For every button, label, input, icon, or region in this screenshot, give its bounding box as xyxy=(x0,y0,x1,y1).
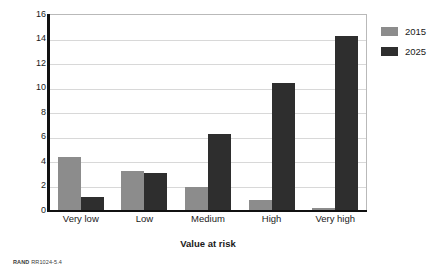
legend-swatch xyxy=(381,47,398,56)
bar-2025[interactable] xyxy=(81,197,104,210)
bar-2025[interactable] xyxy=(272,83,295,210)
bar-group xyxy=(58,15,104,210)
y-tick-label: 12 xyxy=(24,59,46,68)
bar-2025[interactable] xyxy=(144,173,167,210)
chart-figure: Average number of tools used 02468101214… xyxy=(0,0,442,277)
bar-2025[interactable] xyxy=(335,36,358,210)
y-tick-label: 8 xyxy=(24,108,46,117)
x-axis-tick-labels: Very lowLowMediumHighVery high xyxy=(49,213,367,227)
y-tick-label: 6 xyxy=(24,132,46,141)
x-axis-line xyxy=(47,210,367,213)
y-tick-label: 4 xyxy=(24,157,46,166)
y-axis-tick-labels: 0246810121416 xyxy=(24,14,46,210)
bar-2015[interactable] xyxy=(185,187,208,210)
bar-group xyxy=(249,15,295,210)
y-tick-label: 10 xyxy=(24,83,46,92)
legend-item[interactable]: 2015 xyxy=(381,26,439,37)
credit-figure-number: RR1024-5.4 xyxy=(31,259,62,265)
figure-credit: RANDRR1024-5.4 xyxy=(13,259,62,265)
bar-group xyxy=(185,15,231,210)
chart-legend: 20152025 xyxy=(381,26,439,66)
bar-group xyxy=(121,15,167,210)
legend-label: 2015 xyxy=(405,26,426,37)
bar-2015[interactable] xyxy=(58,157,81,210)
y-tick-label: 16 xyxy=(24,10,46,19)
x-tick-label: Low xyxy=(113,213,177,225)
y-tick-label: 2 xyxy=(24,181,46,190)
bar-2015[interactable] xyxy=(249,200,272,210)
x-axis-title: Value at risk xyxy=(49,238,367,249)
legend-label: 2025 xyxy=(405,46,426,57)
bar-2015[interactable] xyxy=(121,171,144,210)
y-axis-line xyxy=(47,14,50,212)
x-tick-label: Very low xyxy=(49,213,113,225)
plot-area xyxy=(49,14,367,210)
bar-2025[interactable] xyxy=(208,134,231,210)
x-tick-label: High xyxy=(240,213,304,225)
y-tick-label: 14 xyxy=(24,34,46,43)
x-tick-label: Medium xyxy=(176,213,240,225)
legend-swatch xyxy=(381,27,398,36)
plot-inner xyxy=(49,15,366,210)
bar-group xyxy=(312,15,358,210)
credit-brand: RAND xyxy=(13,259,29,265)
x-tick-label: Very high xyxy=(303,213,367,225)
y-tick-label: 0 xyxy=(24,206,46,215)
legend-item[interactable]: 2025 xyxy=(381,46,439,57)
